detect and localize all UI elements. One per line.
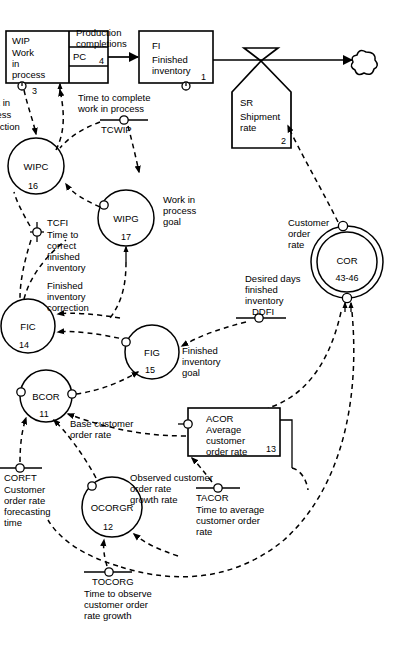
flow-shipment-rate: SR Shipment rate 2 [213, 48, 377, 148]
link-bcor-to-fig [76, 372, 138, 394]
aux-fic-label-line2: inventory [47, 291, 86, 302]
level-acor[interactable]: ACOR Average customer order rate 13 [188, 408, 280, 457]
aux-ocorgr-number: 12 [103, 522, 113, 532]
rate-pc-number: 4 [99, 56, 104, 66]
aux-wipg-acronym: WIPG [113, 213, 138, 224]
aux-wipg-label-line2: process [163, 205, 197, 216]
constant-tcfi-line1: Time to [47, 229, 78, 240]
aux-bcor-label-line2: order rate [70, 429, 111, 440]
aux-bcor-label-line1: Base customer [70, 418, 133, 429]
constant-tcwip-line1: Time to complete [78, 92, 151, 103]
acor-left-node [184, 420, 192, 428]
level-wip-line3: process [12, 69, 46, 80]
link-tcwip-to-wipc [60, 122, 100, 148]
constant-tacor-line2: customer order [196, 515, 260, 526]
level-acor-line2: customer [206, 435, 245, 446]
link-wipg-to-wipc [66, 184, 100, 207]
level-fi-acronym: FI [152, 40, 160, 51]
constant-tacor[interactable]: TACOR Time to average customer order rat… [196, 484, 264, 537]
bcor-left-node [17, 388, 25, 396]
cloud-sink-icon [351, 51, 377, 75]
link-wip-to-wipc [24, 90, 36, 134]
aux-fig-label-line2: inventory [182, 356, 221, 367]
aux-fig[interactable]: FIG 15 [125, 325, 179, 379]
aux-fic-number: 14 [19, 340, 29, 350]
rate-sr-line1: Shipment [240, 111, 280, 122]
constant-corft-line2: order rate [4, 495, 45, 506]
constant-ddfi[interactable]: Desired days finished inventory DDFI [236, 273, 301, 322]
level-acor-acronym: ACOR [206, 413, 234, 424]
link-into-fic-upper [58, 313, 120, 318]
cor-top-node [338, 221, 347, 230]
constant-tcfi-line4: inventory [47, 262, 86, 273]
diagram-canvas: WIP Work in process 3 PC 4 Production co… [0, 0, 397, 648]
bcor-right-node [68, 390, 76, 398]
acor-right-connector [280, 420, 292, 468]
aux-cor-label-line2: order [288, 228, 310, 239]
constant-corft[interactable]: CORFT Customer order rate forecasting ti… [0, 464, 50, 528]
link-corft-to-bcor [20, 418, 26, 462]
level-acor-number: 13 [266, 444, 276, 454]
constant-tcwip-line2: work in process [77, 103, 144, 114]
link-ddfi-to-fig [182, 322, 246, 346]
aux-wipc[interactable]: WIPC 16 [8, 138, 64, 194]
rate-pc-acronym: PC [73, 51, 86, 62]
aux-cor-label-line3: rate [288, 239, 304, 250]
level-wip-acronym: WIP [12, 35, 30, 46]
link-wipc-to-pc [56, 90, 63, 150]
link-tcfi-up [14, 192, 30, 226]
constant-tcwip[interactable]: Time to complete work in process TCWIP [77, 92, 151, 135]
aux-wipc-label-line3: correction [0, 121, 20, 132]
aux-fig-acronym: FIG [144, 347, 160, 358]
constant-tacor-line1: Time to average [196, 504, 264, 515]
constant-tocorg-line2: customer order [84, 599, 148, 610]
fig-input-node [122, 338, 130, 346]
level-wip-line2: in [12, 58, 19, 69]
aux-bcor-label: Base customer order rate [70, 418, 133, 440]
link-tcfi-to-fic [20, 240, 31, 298]
constant-ddfi-acronym: DDFI [252, 306, 274, 317]
level-wip-line1: Work [12, 47, 34, 58]
aux-ocorgr-label-line1: Observed customer [130, 472, 213, 483]
constant-ddfi-line2: finished [245, 284, 278, 295]
constant-tacor-acronym: TACOR [196, 492, 229, 503]
aux-wipg-label-line1: Work in [163, 194, 195, 205]
rate-sr-acronym: SR [240, 97, 253, 108]
level-acor-line1: Average [206, 424, 241, 435]
rate-sr-number: 2 [281, 136, 286, 146]
flow-pc-label-line1: Production [76, 27, 121, 38]
aux-bcor-number: 11 [39, 409, 48, 419]
cor-bottom-node [342, 293, 351, 302]
level-fi[interactable]: FI Finished inventory 1 [139, 31, 213, 83]
link-acor-connector-tail [292, 468, 308, 490]
flow-pc-label-line2: completions [76, 38, 127, 49]
aux-wipc-number: 16 [28, 181, 38, 191]
aux-cor[interactable]: COR 43-46 [311, 226, 383, 298]
level-acor-line3: order rate [206, 446, 247, 457]
aux-fig-label-line1: Finished [182, 345, 218, 356]
aux-fic-label-line3: correction [47, 302, 89, 313]
aux-fic-acronym: FIC [20, 321, 35, 332]
constant-tcwip-acronym: TCWIP [101, 124, 132, 135]
aux-ocorgr-label-line3: growth rate [130, 494, 178, 505]
aux-wipc-label-line1: Work in [0, 97, 10, 108]
level-wip-number: 3 [32, 86, 37, 96]
constant-ddfi-line1: Desired days [245, 273, 301, 284]
aux-wipg[interactable]: WIPG 17 [98, 190, 154, 246]
constant-tcfi[interactable]: TCFI Time to correct finished inventory [30, 217, 86, 273]
aux-ocorgr-acronym: OCORGR [91, 502, 134, 513]
aux-wipc-acronym: WIPC [24, 161, 49, 172]
constant-tocorg-line1: Time to observe [84, 588, 152, 599]
wipg-input-node [100, 201, 108, 209]
constant-tocorg-line3: rate growth [84, 610, 132, 621]
ocorgr-input-node [88, 482, 96, 490]
aux-wipg-number: 17 [121, 232, 131, 242]
aux-fic-label: Finished inventory correction [47, 280, 89, 313]
aux-bcor[interactable]: BCOR 11 [20, 370, 72, 422]
aux-cor-label-line1: Customer [288, 217, 329, 228]
aux-wipc-label: Work in process correction [0, 97, 20, 132]
level-fi-line1: Finished [152, 54, 188, 65]
constant-tocorg[interactable]: TOCORG Time to observe customer order ra… [84, 568, 152, 621]
level-fi-line2: inventory [152, 65, 191, 76]
link-cor-to-sr [288, 126, 338, 222]
